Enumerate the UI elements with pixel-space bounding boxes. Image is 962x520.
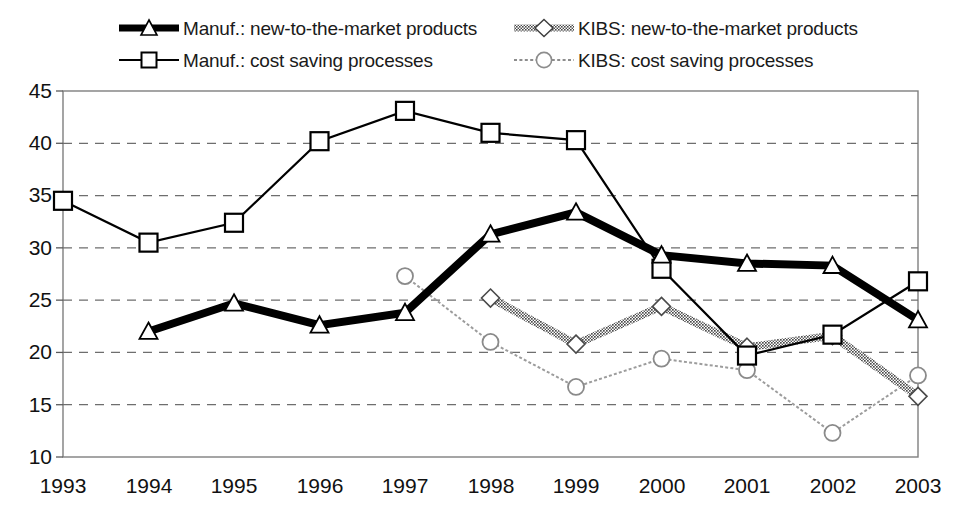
data-point	[311, 132, 329, 150]
x-tick-label: 2002	[790, 474, 876, 498]
x-tick-label: 1999	[533, 474, 619, 498]
data-point	[225, 214, 243, 232]
data-point	[397, 268, 413, 284]
data-point	[910, 367, 926, 383]
data-point	[824, 326, 842, 344]
x-tick-label: 1995	[191, 474, 277, 498]
x-tick-label: 2003	[875, 474, 961, 498]
x-tick-label: 2000	[619, 474, 705, 498]
y-tick-label: 30	[8, 236, 52, 260]
x-tick-label: 1997	[362, 474, 448, 498]
data-point	[825, 425, 841, 441]
data-point	[483, 334, 499, 350]
data-point	[567, 131, 585, 149]
x-tick-label: 1994	[106, 474, 192, 498]
x-tick-label: 2001	[704, 474, 790, 498]
data-point	[568, 379, 584, 395]
y-tick-label: 10	[8, 445, 52, 469]
y-tick-label: 40	[8, 131, 52, 155]
x-tick-label: 1993	[20, 474, 106, 498]
data-point	[140, 234, 158, 252]
x-tick-label: 1996	[277, 474, 363, 498]
data-point	[909, 272, 927, 290]
data-point	[482, 124, 500, 142]
chart-container: Manuf.: new-to-the-market products K	[0, 0, 962, 520]
plot-area	[0, 0, 962, 520]
x-tick-label: 1998	[448, 474, 534, 498]
data-point	[738, 347, 756, 365]
y-tick-label: 15	[8, 393, 52, 417]
y-tick-label: 25	[8, 288, 52, 312]
y-tick-label: 35	[8, 183, 52, 207]
data-point	[54, 192, 72, 210]
data-point	[396, 102, 414, 120]
y-tick-label: 45	[8, 79, 52, 103]
data-point	[654, 351, 670, 367]
y-tick-label: 20	[8, 340, 52, 364]
